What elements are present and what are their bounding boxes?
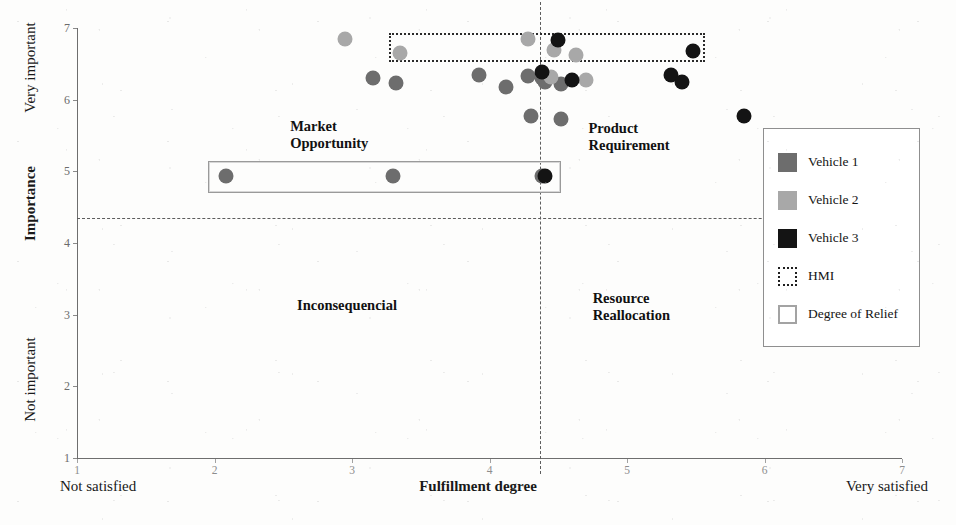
legend-item: Vehicle 2: [778, 181, 919, 219]
legend-label: Vehicle 3: [808, 230, 859, 246]
x-tick-mark: [490, 459, 491, 463]
data-point: [521, 69, 536, 84]
legend-label: Degree of Relief: [808, 306, 898, 322]
quadrant-label-resource-reallocation: Resource Reallocation: [593, 290, 670, 325]
legend-item: Vehicle 3: [778, 219, 919, 257]
data-point: [686, 43, 701, 58]
data-point: [365, 71, 380, 86]
data-point: [218, 169, 233, 184]
x-tick-label: 4: [487, 464, 493, 476]
data-point: [521, 31, 536, 46]
y-tick-label: 3: [64, 307, 70, 322]
legend-swatch-icon: [778, 267, 797, 286]
y-tick-label: 1: [64, 451, 70, 466]
scatter-chart: 1234567 1234567 Market OpportunityProduc…: [0, 0, 956, 525]
quadrant-label-inconsequential: Inconsequencial: [297, 297, 397, 315]
data-point: [578, 72, 593, 87]
data-point: [471, 67, 486, 82]
x-axis-title: Fulfillment degree: [419, 478, 537, 495]
data-point: [534, 65, 549, 80]
x-tick-mark: [627, 459, 628, 463]
x-axis-caption-right: Very satisfied: [846, 478, 928, 495]
y-tick-mark: [73, 171, 77, 172]
y-tick-mark: [73, 28, 77, 29]
x-tick-label: 5: [624, 464, 630, 476]
data-point: [736, 109, 751, 124]
x-tick-label: 1: [74, 464, 80, 476]
degree-of-relief-box: [208, 161, 561, 193]
y-axis-caption-top: Very important: [22, 22, 39, 112]
chart-legend: Vehicle 1Vehicle 2Vehicle 3HMIDegree of …: [763, 128, 920, 347]
legend-swatch-icon: [778, 229, 797, 248]
legend-label: Vehicle 1: [808, 154, 859, 170]
data-point: [675, 74, 690, 89]
y-tick-label: 5: [64, 164, 70, 179]
y-tick-mark: [73, 243, 77, 244]
data-point: [551, 33, 566, 48]
data-point: [386, 169, 401, 184]
x-tick-mark: [765, 459, 766, 463]
legend-label: HMI: [808, 268, 834, 284]
x-axis-caption-left: Not satisfied: [60, 478, 136, 495]
legend-swatch-icon: [778, 305, 797, 324]
legend-swatch-icon: [778, 191, 797, 210]
legend-swatch-icon: [778, 153, 797, 172]
x-tick-label: 7: [899, 464, 905, 476]
quadrant-label-market-opportunity: Market Opportunity: [290, 118, 368, 153]
x-tick-label: 6: [762, 464, 768, 476]
legend-item: Degree of Relief: [778, 295, 919, 333]
data-point: [338, 31, 353, 46]
quadrant-label-product-requirement: Product Requirement: [589, 120, 670, 155]
legend-item: HMI: [778, 257, 919, 295]
y-tick-label: 4: [64, 236, 70, 251]
x-tick-mark: [77, 459, 78, 463]
y-tick-label: 7: [64, 21, 70, 36]
legend-item: Vehicle 1: [778, 143, 919, 181]
y-axis-caption-bottom: Not important: [21, 337, 38, 422]
x-tick-mark: [902, 459, 903, 463]
y-tick-mark: [73, 315, 77, 316]
y-tick-mark: [73, 100, 77, 101]
data-point: [537, 169, 552, 184]
legend-label: Vehicle 2: [808, 192, 859, 208]
y-axis-title: Importance: [22, 166, 39, 241]
y-axis-line: [77, 28, 78, 458]
y-tick-mark: [73, 386, 77, 387]
data-point: [389, 76, 404, 91]
x-tick-mark: [215, 459, 216, 463]
data-point: [393, 46, 408, 61]
x-tick-label: 2: [212, 464, 218, 476]
data-point: [565, 72, 580, 87]
x-tick-mark: [352, 459, 353, 463]
y-tick-label: 6: [64, 92, 70, 107]
y-tick-label: 2: [64, 379, 70, 394]
x-tick-label: 3: [349, 464, 355, 476]
data-point: [554, 112, 569, 127]
data-point: [499, 79, 514, 94]
data-point: [523, 109, 538, 124]
data-point: [569, 47, 584, 62]
